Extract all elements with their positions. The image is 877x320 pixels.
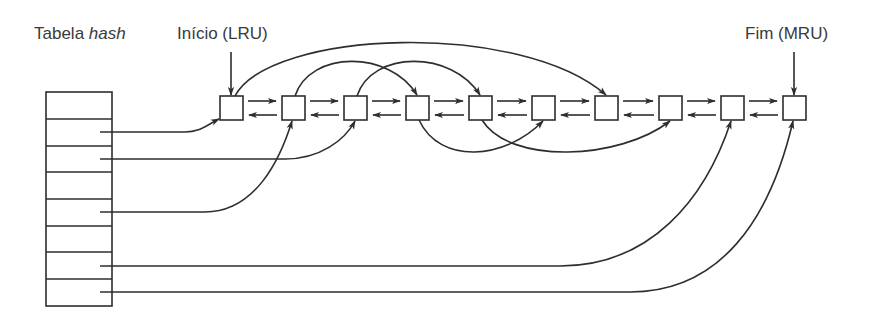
- list-node-4: [406, 96, 429, 120]
- chain-link-3-to-5: [357, 61, 480, 96]
- list-node-3: [344, 96, 367, 120]
- hash-pointer-row5: [100, 121, 292, 212]
- list-node-8: [659, 96, 682, 120]
- list-node-7: [595, 96, 618, 120]
- list-node-5: [469, 96, 492, 120]
- chain-link-2-to-4: [295, 61, 417, 96]
- hash-pointer-row7: [100, 121, 731, 266]
- hash-pointer-row3: [100, 121, 355, 159]
- list-node-6: [532, 96, 555, 120]
- list-node-2: [282, 96, 305, 120]
- lru-hash-diagram: [0, 0, 877, 320]
- hash-table: [46, 92, 112, 306]
- list-nodes: [220, 96, 806, 120]
- hash-pointers: [100, 119, 793, 292]
- chain-link-5-to-8: [482, 120, 670, 152]
- chain-links-top: [235, 43, 606, 96]
- list-node-10: [783, 96, 806, 120]
- chain-link-1-to-7: [235, 43, 606, 96]
- chain-links-bottom: [419, 120, 670, 152]
- list-node-9: [721, 96, 744, 120]
- list-node-1: [220, 96, 243, 120]
- hash-pointer-row2: [100, 119, 219, 132]
